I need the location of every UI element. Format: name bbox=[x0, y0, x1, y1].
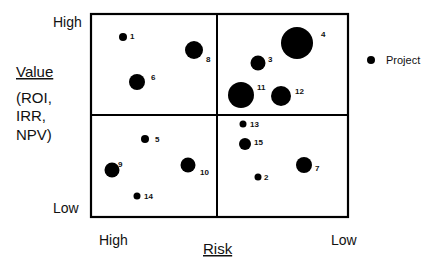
bubble-label: 14 bbox=[144, 192, 153, 201]
legend: Project bbox=[367, 54, 420, 66]
bubble-label: 10 bbox=[200, 168, 209, 177]
bubble-label: 6 bbox=[151, 73, 156, 82]
bubble-label: 7 bbox=[315, 164, 320, 173]
bubble-label: 9 bbox=[118, 160, 123, 169]
bubble-marker-icon bbox=[134, 193, 141, 200]
project-bubble-11: 11 bbox=[228, 82, 266, 108]
project-bubble-5: 5 bbox=[141, 135, 160, 144]
bubble-marker-icon bbox=[185, 41, 203, 59]
project-bubble-4: 4 bbox=[281, 27, 326, 59]
bubble-label: 5 bbox=[155, 135, 160, 144]
chart-canvas: 123456789101112131415 High Low Value (RO… bbox=[0, 0, 436, 266]
bubble-marker-icon bbox=[240, 121, 247, 128]
project-bubble-13: 13 bbox=[240, 120, 260, 129]
bubble-label: 12 bbox=[295, 87, 304, 96]
project-bubble-1: 1 bbox=[119, 32, 135, 41]
project-bubble-14: 14 bbox=[134, 192, 154, 201]
project-bubble-12: 12 bbox=[271, 86, 304, 106]
bubble-label: 13 bbox=[250, 120, 259, 129]
bubble-label: 8 bbox=[206, 55, 211, 64]
project-bubble-3: 3 bbox=[251, 55, 274, 71]
legend-marker-icon bbox=[367, 56, 375, 64]
project-bubble-8: 8 bbox=[185, 41, 211, 64]
bubble-marker-icon bbox=[141, 135, 149, 143]
project-bubble-2: 2 bbox=[255, 173, 270, 182]
x-axis-low-label: Low bbox=[331, 232, 358, 248]
bubble-marker-icon bbox=[296, 157, 312, 173]
bubble-label: 3 bbox=[268, 55, 273, 64]
risk-value-bubble-chart: 123456789101112131415 High Low Value (RO… bbox=[0, 0, 436, 266]
bubble-marker-icon bbox=[281, 27, 313, 59]
project-bubble-7: 7 bbox=[296, 157, 320, 173]
y-axis-title: Value bbox=[16, 63, 53, 80]
x-axis-title: Risk bbox=[203, 240, 233, 257]
bubble-marker-icon bbox=[255, 174, 262, 181]
y-axis-subtitle-line: IRR, bbox=[16, 107, 46, 124]
bubble-marker-icon bbox=[239, 138, 251, 150]
bubble-label: 4 bbox=[321, 30, 326, 39]
project-bubble-6: 6 bbox=[129, 73, 156, 90]
bubble-marker-icon bbox=[129, 74, 145, 90]
bubble-marker-icon bbox=[251, 56, 266, 71]
bubble-marker-icon bbox=[119, 33, 127, 41]
bubble-marker-icon bbox=[181, 158, 196, 173]
bubble-marker-icon bbox=[271, 86, 291, 106]
x-axis-high-label: High bbox=[99, 232, 128, 248]
y-axis-low-label: Low bbox=[53, 200, 80, 216]
bubble-label: 1 bbox=[130, 32, 135, 41]
bubble-label: 2 bbox=[264, 173, 269, 182]
y-axis-subtitle-line: (ROI, bbox=[16, 89, 52, 106]
y-axis-high-label: High bbox=[53, 14, 82, 30]
project-bubble-15: 15 bbox=[239, 138, 263, 150]
bubble-label: 11 bbox=[257, 83, 266, 92]
bubble-label: 15 bbox=[254, 138, 263, 147]
y-axis-subtitle-line: NPV) bbox=[16, 126, 52, 143]
project-bubble-10: 10 bbox=[181, 158, 210, 178]
bubble-marker-icon bbox=[228, 82, 254, 108]
project-bubble-9: 9 bbox=[105, 160, 124, 178]
legend-label: Project bbox=[386, 54, 420, 66]
